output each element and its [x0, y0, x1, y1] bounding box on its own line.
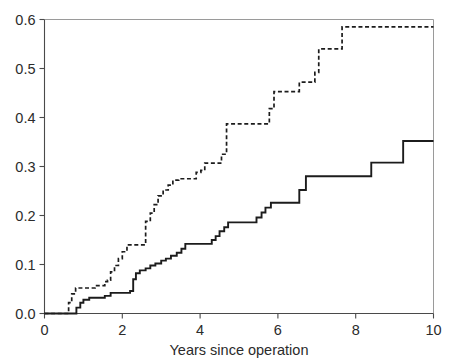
chart-container: 0.00.10.20.30.40.50.6 0246810 Years sinc…	[0, 0, 455, 361]
solid-curve-path	[45, 141, 434, 313]
x-tick-label: 6	[274, 322, 282, 338]
y-tick-label: 0.0	[15, 306, 35, 322]
y-axis-ticks: 0.00.10.20.30.40.50.6	[15, 12, 44, 322]
y-tick-label: 0.5	[15, 61, 35, 77]
y-tick-label: 0.3	[15, 159, 35, 175]
cumulative-incidence-chart: 0.00.10.20.30.40.50.6 0246810 Years sinc…	[0, 0, 455, 361]
plot-frame	[45, 20, 434, 314]
x-tick-label: 4	[196, 322, 204, 338]
x-tick-label: 2	[118, 322, 126, 338]
x-axis-title: Years since operation	[170, 342, 309, 358]
x-tick-label: 0	[40, 322, 48, 338]
x-tick-label: 10	[425, 322, 441, 338]
dashed-curve-path	[45, 27, 434, 314]
series-group	[45, 27, 434, 314]
y-tick-label: 0.2	[15, 208, 35, 224]
x-axis-ticks: 0246810	[40, 314, 441, 338]
y-tick-label: 0.4	[15, 110, 35, 126]
x-tick-label: 8	[352, 322, 360, 338]
y-tick-label: 0.6	[15, 12, 35, 28]
y-tick-label: 0.1	[15, 257, 35, 273]
